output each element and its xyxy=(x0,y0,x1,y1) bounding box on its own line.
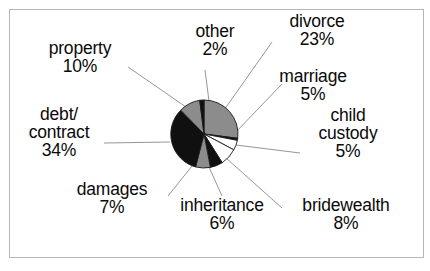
pie-label-bridewealth: bridewealth 8% xyxy=(281,196,411,232)
pie-label-divorce-name: divorce xyxy=(272,12,362,30)
pie-label-bridewealth-name: bridewealth xyxy=(281,196,411,214)
leader-line-property xyxy=(128,67,186,107)
pie-label-property-name: property xyxy=(27,39,133,57)
leader-line-child xyxy=(236,145,300,153)
pie-label-marriage-percent: 5% xyxy=(259,85,367,103)
pie-label-property: property 10% xyxy=(27,39,133,75)
pie-label-damages-percent: 7% xyxy=(60,198,164,216)
pie-label-child-custody-name1: child xyxy=(301,106,395,124)
pie-label-debt-contract-name2: contract xyxy=(12,123,106,141)
pie-label-marriage: marriage 5% xyxy=(259,67,367,103)
pie-label-other-percent: 2% xyxy=(169,40,261,58)
pie-label-inheritance-percent: 6% xyxy=(160,214,284,232)
leader-line-damages xyxy=(168,166,192,196)
leader-line-other xyxy=(205,70,209,101)
pie-label-child-custody-name2: custody xyxy=(301,124,395,142)
pie-label-other: other 2% xyxy=(169,22,261,58)
pie-label-inheritance-name: inheritance xyxy=(160,196,284,214)
leader-line-inheritance xyxy=(209,167,222,196)
pie-label-debt-contract-name1: debt/ xyxy=(12,105,106,123)
pie-label-other-name: other xyxy=(169,22,261,40)
pie-label-child-custody-percent: 5% xyxy=(301,142,395,160)
pie-label-damages-name: damages xyxy=(60,180,164,198)
pie-label-debt-contract-percent: 34% xyxy=(12,141,106,159)
pie-label-inheritance: inheritance 6% xyxy=(160,196,284,232)
pie-label-property-percent: 10% xyxy=(27,57,133,75)
leader-line-debt xyxy=(104,142,170,143)
pie-label-debt-contract: debt/ contract 34% xyxy=(12,105,106,159)
pie-label-divorce: divorce 23% xyxy=(272,12,362,48)
pie-chart-figure: other 2% divorce 23% property 10% marria… xyxy=(0,0,430,271)
pie-label-marriage-name: marriage xyxy=(259,67,367,85)
pie-label-bridewealth-percent: 8% xyxy=(281,214,411,232)
pie-label-damages: damages 7% xyxy=(60,180,164,216)
pie-slice-divorce[interactable] xyxy=(204,100,238,138)
pie-label-child-custody: child custody 5% xyxy=(301,106,395,160)
pie-slices xyxy=(171,100,238,168)
pie-label-divorce-percent: 23% xyxy=(272,30,362,48)
